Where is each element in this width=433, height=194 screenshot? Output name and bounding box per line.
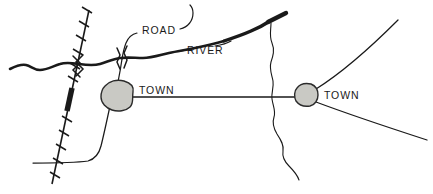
railroad-tie <box>68 76 78 82</box>
town-left-symbol[interactable] <box>101 80 133 111</box>
town-right-symbol[interactable] <box>295 84 318 107</box>
road-bridge-to-town <box>118 59 122 82</box>
railroad-tie <box>76 35 86 41</box>
river-headwater <box>268 13 286 22</box>
railroad-tie <box>79 21 89 27</box>
railroad-tie <box>82 7 92 13</box>
river-tributary <box>270 23 299 180</box>
river-label: RIVER <box>187 44 224 56</box>
towns-group <box>101 80 318 111</box>
railroad-line <box>50 7 92 184</box>
town-left-label: TOWN <box>139 84 175 96</box>
river-main-east <box>224 21 270 41</box>
road-southwest-branch <box>33 106 110 163</box>
road-network <box>33 5 427 163</box>
road-northeast-branch <box>316 20 398 89</box>
road-southeast-branch <box>316 102 427 140</box>
town-right-label: TOWN <box>324 89 360 101</box>
road-label: ROAD <box>142 24 176 36</box>
sketch-map-canvas: ROAD RIVER TOWN TOWN <box>0 0 433 194</box>
railroad-tunnel-segment <box>67 88 72 111</box>
road-leader-line <box>180 5 193 29</box>
sketch-map-drawing: ROAD RIVER TOWN TOWN <box>0 0 433 194</box>
railroad-tie <box>73 49 83 55</box>
